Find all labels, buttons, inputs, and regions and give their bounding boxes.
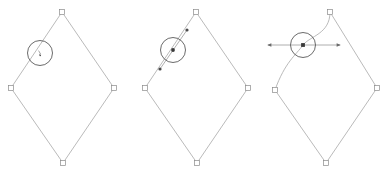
diamond-outline-1[interactable] <box>11 12 114 163</box>
vertex-top-1[interactable] <box>59 9 64 14</box>
vertex-left-3[interactable] <box>272 87 277 92</box>
inserted-node-dot-2[interactable] <box>171 48 175 52</box>
vertex-right-2[interactable] <box>245 85 250 90</box>
diamond-outline-3[interactable] <box>275 12 377 163</box>
illustration-canvas <box>0 0 388 176</box>
vertex-top-3[interactable] <box>327 9 332 14</box>
vertex-left-1[interactable] <box>8 85 13 90</box>
smooth-node-square-3[interactable] <box>301 43 305 47</box>
pen-tip-icon <box>39 51 41 57</box>
figure-root <box>0 0 388 176</box>
panel-2-diamond-with-new-node <box>142 9 250 165</box>
vertex-bottom-1[interactable] <box>60 160 65 165</box>
vertex-right-1[interactable] <box>111 85 116 90</box>
handle-endpoint-lower-left-2[interactable] <box>158 67 161 70</box>
handle-arrow-left-icon[interactable] <box>267 43 271 47</box>
vertex-right-3[interactable] <box>374 85 379 90</box>
diamond-outline-2[interactable] <box>145 12 248 163</box>
handle-arrow-right-icon[interactable] <box>337 43 341 47</box>
vertex-bottom-3[interactable] <box>323 160 328 165</box>
handle-endpoint-upper-right-2[interactable] <box>185 28 188 31</box>
panel-3-diamond-with-smooth-node <box>267 9 379 165</box>
panel-1-diamond-with-cursor <box>8 9 116 165</box>
vertex-bottom-2[interactable] <box>194 160 199 165</box>
vertex-top-2[interactable] <box>193 9 198 14</box>
vertex-left-2[interactable] <box>142 85 147 90</box>
